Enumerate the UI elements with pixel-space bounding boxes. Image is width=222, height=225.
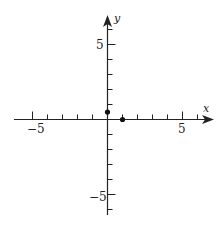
x-ticks: [33, 112, 198, 120]
y-tick-label-pos5: 5: [96, 38, 104, 52]
coordinate-plane: −5 5 5 −5 x y: [0, 0, 222, 225]
y-tick-label-neg5: −5: [89, 190, 107, 204]
x-tick-label-neg5: −5: [27, 122, 45, 136]
data-point: [105, 109, 110, 114]
x-tick-label-pos5: 5: [178, 122, 186, 136]
x-axis-label: x: [203, 102, 210, 115]
y-axis-label: y: [113, 12, 121, 25]
data-point: [120, 117, 125, 122]
